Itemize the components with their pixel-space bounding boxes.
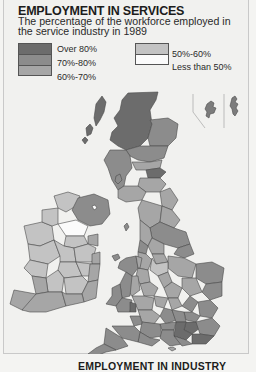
region-norfolk — [196, 262, 224, 284]
legend-label-over-80: Over 80% — [57, 44, 97, 54]
legend-label-60-70: 60%-70% — [57, 72, 96, 82]
legend-swatch-over-80 — [18, 43, 52, 54]
legend-label-70-80: 70%-80% — [57, 58, 96, 68]
legend-swatch-60-70 — [18, 65, 52, 76]
region-grampian — [148, 118, 178, 146]
region-essex — [198, 300, 218, 318]
legend-swatch-70-80 — [18, 54, 52, 65]
legend-label-under-50: Less than 50% — [172, 62, 232, 72]
legend-swatch-under-50 — [135, 54, 169, 65]
british-isles-map — [0, 88, 256, 354]
region-warwickshire — [154, 296, 168, 308]
region-dublin — [92, 252, 100, 264]
region-lothian — [146, 168, 166, 178]
region-lincolnshire — [168, 256, 196, 278]
region-limerick — [32, 276, 48, 294]
region-west-midlands — [140, 282, 158, 296]
region-waterford — [62, 292, 84, 306]
orkney-shetland-inset — [193, 94, 238, 128]
region-cambridgeshire — [182, 278, 202, 296]
region-northamptonshire — [168, 298, 182, 310]
region-hertfordshire — [184, 312, 200, 322]
region-bedfordshire — [182, 296, 198, 312]
region-anglesey — [112, 254, 120, 261]
region-tayside — [126, 146, 168, 162]
region-suffolk — [202, 282, 222, 300]
region-east-sussex — [192, 334, 214, 344]
region-powys — [120, 272, 132, 298]
region-western-isles — [94, 96, 106, 126]
region-isle-of-wight — [168, 347, 176, 351]
region-berkshire — [160, 322, 176, 330]
region-wicklow — [88, 264, 100, 282]
region-gwent — [130, 302, 136, 312]
region-kent — [196, 318, 220, 336]
next-section-caption: EMPLOYMENT IN INDUSTRY — [78, 360, 226, 372]
region-isle-of-man — [124, 223, 129, 231]
legend-swatch-50-60 — [135, 43, 169, 54]
region-louth — [88, 234, 98, 246]
region-avon — [130, 316, 142, 326]
map-subtitle: The percentage of the workforce employed… — [18, 17, 233, 36]
legend-label-50-60: 50%-60% — [172, 49, 211, 59]
